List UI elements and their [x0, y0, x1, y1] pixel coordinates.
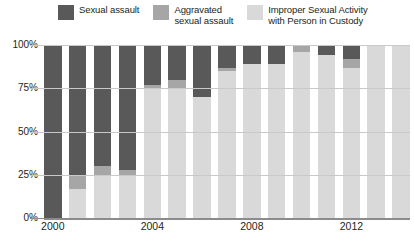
- bar-segment-2009-sexual-assault: [268, 45, 286, 64]
- y-tick-mark-0: [30, 218, 44, 219]
- bar-segment-2005-aggravated: [168, 80, 186, 89]
- y-tick-mark-75: [30, 88, 44, 89]
- bar-segment-2012-sexual-assault: [343, 45, 361, 59]
- bar-segment-2001-aggravated: [69, 175, 87, 189]
- stacked-bar-chart: Sexual assault Aggravated sexual assault…: [0, 0, 414, 245]
- y-tick-mark-50: [30, 132, 44, 133]
- bar-segment-2003-sexual-assault: [119, 45, 137, 170]
- bar-segment-2001-improper: [69, 189, 87, 218]
- bar-segment-2006-improper: [193, 97, 211, 218]
- legend-label-improper-sexual-activity: Improper Sexual Activity with Person in …: [268, 4, 368, 26]
- legend-item-improper-sexual-activity: Improper Sexual Activity with Person in …: [247, 4, 368, 26]
- y-axis-tick-marks: [30, 45, 44, 218]
- plot-wrapper: 0%25%50%75%100% 2000200420082012: [0, 38, 414, 245]
- x-tick-label-2012: 2012: [340, 220, 363, 232]
- bar-segment-2012-aggravated: [343, 59, 361, 68]
- bar-segment-2005-sexual-assault: [168, 45, 186, 80]
- bar-segment-2005-improper: [168, 88, 186, 218]
- bar-segment-2011-sexual-assault: [318, 45, 336, 55]
- bar-segment-2004-sexual-assault: [144, 45, 162, 85]
- bar-segment-2007-sexual-assault: [218, 45, 236, 67]
- bar-segment-2002-sexual-assault: [94, 45, 112, 166]
- legend-item-aggravated-sexual-assault: Aggravated sexual assault: [153, 4, 233, 26]
- legend-label-sexual-assault: Sexual assault: [79, 4, 139, 15]
- bar-segment-2002-aggravated: [94, 166, 112, 175]
- bar-segment-2009-improper: [268, 64, 286, 218]
- x-tick-label-2008: 2008: [240, 220, 263, 232]
- bar-segment-2001-sexual-assault: [69, 45, 87, 175]
- bar-segment-2012-improper: [343, 68, 361, 219]
- legend-swatch-aggravated-sexual-assault: [153, 5, 169, 20]
- y-tick-mark-25: [30, 175, 44, 176]
- bar-segment-2008-sexual-assault: [243, 45, 261, 64]
- bar-segment-2002-improper: [94, 175, 112, 218]
- bar-segment-2008-improper: [243, 64, 261, 218]
- legend-swatch-improper-sexual-activity: [247, 5, 263, 20]
- legend-swatch-sexual-assault: [58, 5, 74, 20]
- x-axis: 2000200420082012: [44, 220, 410, 240]
- legend-label-aggravated-sexual-assault: Aggravated sexual assault: [174, 4, 233, 26]
- gridline-25: [44, 175, 410, 176]
- gridline-100: [44, 45, 410, 46]
- y-tick-mark-100: [30, 45, 44, 46]
- bar-segment-2011-improper: [318, 55, 336, 218]
- gridline-75: [44, 88, 410, 89]
- bar-segment-2003-improper: [119, 175, 137, 218]
- legend-item-sexual-assault: Sexual assault: [58, 4, 139, 20]
- bar-segment-2007-improper: [218, 71, 236, 218]
- gridline-50: [44, 132, 410, 133]
- x-tick-label-2004: 2004: [141, 220, 164, 232]
- bar-segment-2004-improper: [144, 88, 162, 218]
- plot-area: [44, 45, 410, 218]
- chart-legend: Sexual assault Aggravated sexual assault…: [0, 4, 414, 38]
- bar-segment-2010-aggravated: [293, 45, 311, 52]
- bar-segment-2010-improper: [293, 52, 311, 218]
- x-tick-label-2000: 2000: [41, 220, 64, 232]
